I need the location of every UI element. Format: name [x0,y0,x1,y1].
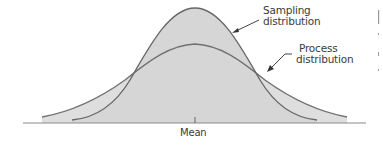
process-callout-arrow [267,54,292,72]
sampling-distribution-label: Sampling distribution [263,5,320,27]
process-label-line2: distribution [296,54,353,65]
distribution-diagram [0,0,383,145]
edge-fragments [378,10,379,71]
process-distribution-label: Process distribution [296,43,353,65]
sampling-label-line2: distribution [263,16,320,27]
mean-axis-label: Mean [180,127,206,138]
sampling-callout-arrow [232,20,259,33]
